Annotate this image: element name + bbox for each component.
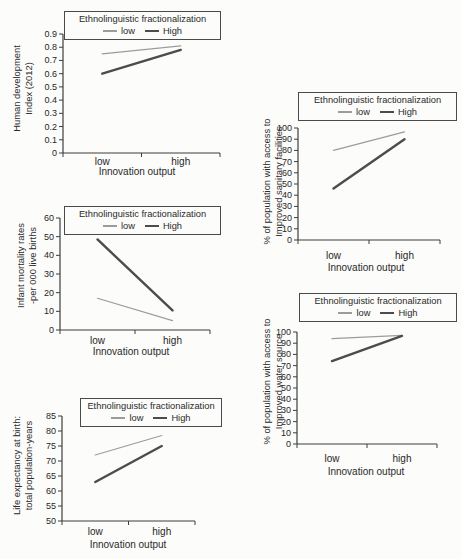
legend-entry-label: low [121, 25, 135, 37]
legend-life-expectancy: Ethnolinguistic fractionalizationlowHigh [80, 398, 222, 427]
legend-entry-high: High [145, 25, 182, 37]
y-tick-label: 0.5 [44, 82, 57, 92]
x-axis-label-human-development-index: Innovation output [67, 166, 207, 177]
legend-entry-high: High [380, 106, 417, 118]
legend-entry-high: High [380, 307, 417, 319]
y-axis-label-line: Infant mortality rates [15, 199, 27, 331]
legend-line-low-swatch-icon [338, 312, 352, 314]
x-tick-label: low [88, 526, 104, 537]
x-tick-label: low [326, 250, 342, 261]
legend-entry-low: low [111, 412, 143, 424]
chart-life-expectancy-plot: 5055606570758085lowhigh [46, 411, 195, 537]
legend-line-low-swatch-icon [111, 417, 125, 419]
y-tick-label: 0.3 [44, 108, 57, 118]
series-line-high [98, 239, 173, 310]
y-axis-label-line: total population-years [22, 391, 34, 539]
x-axis-label-improved-sanitary-facilities: Innovation output [296, 262, 436, 273]
y-tick-label: 0 [52, 148, 57, 158]
y-tick-label: 70 [46, 456, 56, 466]
chart-human-development-index-plot: 00.10.20.30.40.50.60.70.80.9lowhigh [44, 29, 220, 167]
y-axis-label-human-development-index: Human developmentIndex (2012) [11, 22, 34, 154]
y-tick-label: 50 [46, 516, 56, 526]
y-tick-label: 50 [44, 232, 54, 242]
legend-line-low-swatch-icon [338, 111, 352, 113]
legend-entry-label: High [398, 307, 417, 319]
legend-entry-low: low [103, 220, 135, 232]
legend-title: Ethnolinguistic fractionalization [65, 13, 220, 25]
legend-line-high-swatch-icon [145, 225, 159, 228]
legend-human-development-index: Ethnolinguistic fractionalizationlowHigh [64, 11, 221, 40]
y-axis-label-line: -per 000 live births [26, 199, 38, 331]
y-axis-label-line: Life expectancy at birth: [11, 391, 23, 539]
y-tick-label: 0 [286, 439, 291, 449]
series-line-low [332, 335, 402, 338]
x-axis-label-infant-mortality: Innovation output [61, 346, 201, 357]
y-tick-label: 0.9 [44, 29, 57, 39]
y-tick-label: 0.4 [44, 95, 57, 105]
y-tick-label: 0.8 [44, 42, 57, 52]
legend-entry-label: High [171, 412, 190, 424]
legend-improved-sanitary-facilities: Ethnolinguistic fractionalizationlowHigh [298, 92, 457, 121]
y-tick-label: 75 [46, 441, 56, 451]
legend-infant-mortality: Ethnolinguistic fractionalizationlowHigh [64, 206, 221, 235]
legend-entry-label: low [121, 220, 135, 232]
y-axis-label-line: Index (2012) [22, 22, 34, 154]
y-axis-label-line: % of population with access to [261, 105, 273, 257]
legend-line-low-swatch-icon [103, 30, 117, 32]
chart-improved-sanitary-facilities-plot: 0102030405060708090100lowhigh [277, 123, 440, 261]
legend-entry-low: low [103, 25, 135, 37]
chart-improved-water-source-plot: 0102030405060708090100lowhigh [276, 327, 437, 464]
legend-title: Ethnolinguistic fractionalization [65, 208, 220, 220]
y-axis-label-line: % of population with access to [261, 305, 273, 457]
y-axis-label-line: Improved sanitary facilities [272, 105, 284, 257]
y-tick-label: 0.1 [44, 135, 57, 145]
legend-entries: lowHigh [300, 307, 456, 319]
legend-entry-label: low [129, 412, 143, 424]
y-tick-label: 55 [46, 501, 56, 511]
y-tick-label: 60 [46, 486, 56, 496]
x-tick-label: low [324, 453, 340, 464]
x-tick-label: high [393, 453, 412, 464]
y-tick-label: 0 [49, 325, 54, 335]
y-tick-label: 0 [287, 235, 292, 245]
legend-line-high-swatch-icon [145, 30, 159, 33]
legend-entries: lowHigh [81, 412, 221, 424]
x-axis-label-life-expectancy: Innovation output [58, 539, 198, 550]
y-axis-label-line: Human development [11, 22, 23, 154]
series-line-high [95, 446, 162, 482]
y-axis-label-improved-sanitary-facilities: % of population with access toImproved s… [261, 105, 284, 257]
legend-entry-low: low [338, 106, 370, 118]
y-axis-label-line: Improved water source [272, 305, 284, 457]
y-tick-label: 0.2 [44, 122, 57, 132]
y-tick-label: 40 [44, 250, 54, 260]
x-tick-label: high [395, 250, 414, 261]
legend-title: Ethnolinguistic fractionalization [299, 94, 456, 106]
y-tick-label: 85 [46, 411, 56, 421]
figure-page: 00.10.20.30.40.50.60.70.80.9lowhigh01020… [0, 0, 461, 559]
legend-entry-label: High [163, 220, 182, 232]
y-tick-label: 30 [44, 269, 54, 279]
legend-entry-label: High [163, 25, 182, 37]
y-tick-label: 60 [44, 213, 54, 223]
legend-entry-high: High [145, 220, 182, 232]
legend-entries: lowHigh [65, 25, 220, 37]
legend-line-high-swatch-icon [380, 111, 394, 114]
legend-entry-high: High [153, 412, 190, 424]
legend-title: Ethnolinguistic fractionalization [300, 295, 456, 307]
legend-improved-water-source: Ethnolinguistic fractionalizationlowHigh [299, 293, 457, 322]
y-tick-label: 10 [44, 306, 54, 316]
x-tick-label: high [152, 526, 171, 537]
y-tick-label: 80 [46, 426, 56, 436]
legend-line-low-swatch-icon [103, 225, 117, 227]
x-tick-label: high [163, 335, 182, 346]
legend-line-high-swatch-icon [153, 417, 167, 420]
y-tick-label: 20 [44, 288, 54, 298]
y-axis-label-life-expectancy: Life expectancy at birth:total populatio… [11, 391, 34, 539]
y-tick-label: 0.7 [44, 55, 57, 65]
legend-entry-low: low [338, 307, 370, 319]
series-line-high [102, 50, 181, 74]
x-tick-label: low [90, 335, 106, 346]
series-line-low [98, 298, 173, 320]
y-axis-label-improved-water-source: % of population with access toImproved w… [261, 305, 284, 457]
legend-entry-label: low [356, 307, 370, 319]
